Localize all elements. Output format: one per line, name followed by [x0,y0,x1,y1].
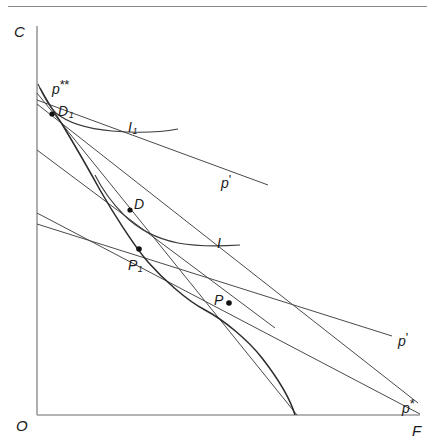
diagram-canvas [0,0,435,444]
price-line-p-prime-d1-to-p [37,104,418,403]
price-line-p-double-star [37,93,297,415]
point-d1-dot [49,111,54,116]
production-possibility-frontier [40,88,295,415]
origin-label: O [16,418,28,433]
label-p1-sub: 1 [137,264,143,274]
label-d1-base: D [58,103,68,119]
label-d1-sub: 1 [68,110,74,120]
label-p-star-base: p [402,400,410,416]
price-line-p-star-tangent [37,213,420,414]
label-p: P [214,293,223,307]
label-p1: P1 [128,258,143,274]
label-p-double-star-marks: ** [60,77,69,92]
label-p-prime-upper: p' [221,173,231,190]
label-p-star-marks: * [410,396,415,411]
price-line-p-star-upper [37,150,275,328]
horizontal-axis-label: F [412,423,421,438]
price-line-p-prime-budget [37,224,392,336]
label-p-prime-lower-base: p [398,333,406,349]
label-i1-sub: 1 [132,126,138,136]
label-p-double-star-base: p [52,81,60,97]
label-i: I [217,236,221,250]
label-p-prime-upper-base: p [221,175,229,191]
label-d1: D1 [58,104,74,120]
label-p1-base: P [128,257,137,273]
label-i1: I1 [128,120,137,136]
point-p-dot [226,300,232,306]
label-p-double-star: p** [52,78,69,96]
point-d-dot [127,207,132,212]
label-p-prime-lower: p' [398,331,408,348]
label-p-star: p* [402,397,414,415]
vertical-axis-label: C [14,24,25,39]
label-p-prime-lower-marks: ' [406,330,408,345]
label-d: D [134,197,144,211]
trade-diagram-figure: C F O p** D1 I1 p' D I P1 P p' p* [0,0,435,444]
label-p-prime-upper-marks: ' [229,172,231,187]
point-p1-dot [136,246,142,252]
